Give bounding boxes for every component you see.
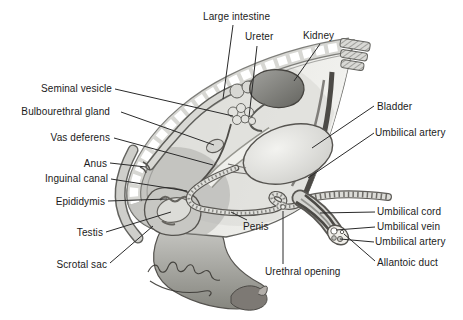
- label-bulbourethral-gland: Bulbourethral gland: [21, 106, 110, 117]
- label-umbilical-cord: Umbilical cord: [377, 206, 441, 217]
- label-umbilical-vein: Umbilical vein: [377, 221, 440, 232]
- label-epididymis: Epididymis: [56, 196, 105, 207]
- hind-leg: [154, 228, 268, 310]
- umbilical-vein-vessel: [331, 228, 337, 234]
- label-bladder: Bladder: [377, 101, 412, 112]
- label-inguinal-canal: Inguinal canal: [45, 173, 108, 184]
- allantoic-duct-vessel: [340, 230, 343, 233]
- anatomy-diagram: Large intestine Ureter Kidney Seminal ve…: [0, 0, 463, 320]
- label-umbilical-artery-lower: Umbilical artery: [375, 236, 446, 247]
- label-allantoic-duct: Allantoic duct: [377, 257, 438, 268]
- kidney-shape: [250, 70, 304, 108]
- leader-allantoic-duct: [344, 234, 375, 261]
- label-large-intestine: Large intestine: [203, 11, 270, 22]
- label-vas-deferens: Vas deferens: [51, 132, 110, 143]
- label-ureter: Ureter: [245, 31, 273, 42]
- urethral-opening-mark: [281, 205, 286, 210]
- label-scrotal-sac: Scrotal sac: [56, 259, 107, 270]
- label-kidney: Kidney: [303, 30, 334, 41]
- label-umbilical-artery-upper: Umbilical artery: [375, 127, 446, 138]
- anatomy-illustration: [0, 0, 463, 320]
- label-testis: Testis: [77, 227, 103, 238]
- umbilical-artery-vessel: [332, 236, 337, 241]
- umbilical-cord-shape: [296, 195, 352, 249]
- label-seminal-vesicle: Seminal vesicle: [41, 83, 112, 94]
- spine-cut-end: [336, 38, 370, 71]
- label-urethral-opening: Urethral opening: [265, 266, 341, 277]
- abdominal-wall-strip: [306, 194, 388, 199]
- label-anus: Anus: [84, 158, 107, 169]
- label-penis: Penis: [243, 221, 269, 232]
